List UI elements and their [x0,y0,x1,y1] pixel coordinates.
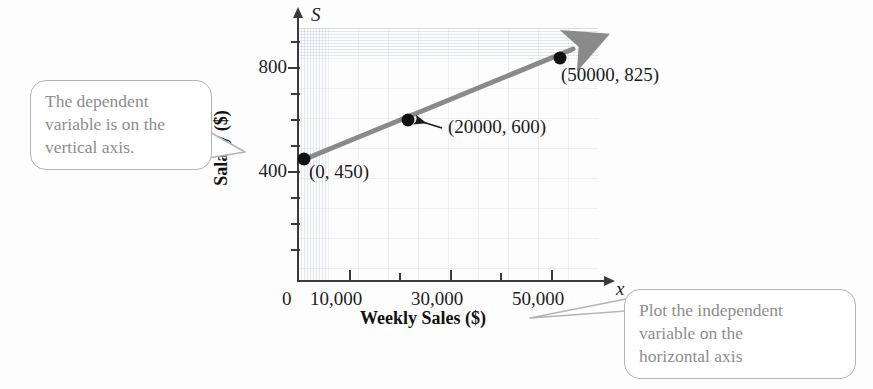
x-tick-10000 [349,270,351,282]
y-axis-line [297,16,299,282]
x-tick-label-50000: 50,000 [512,288,564,310]
x-tick-50000 [551,270,553,282]
y-tick-300 [291,197,300,199]
callout-right-line-2: variable on the [639,322,841,345]
callout-left-line-1: The dependent [45,90,197,113]
y-tick-900 [291,41,300,43]
callout-dependent-variable: The dependent variable is on the vertica… [30,80,212,170]
y-axis-arrow-icon [293,7,303,18]
callout-right-line-3: horizontal axis [639,345,841,368]
data-point-20000-600[interactable] [402,114,415,127]
x-tick-label-10000: 10,000 [310,288,362,310]
data-point-50000-825[interactable] [554,52,567,65]
x-tick-40000 [500,273,502,282]
y-tick-200 [291,223,300,225]
data-point-label-20000-600: (20000, 600) [448,116,546,138]
y-tick-700 [291,93,300,95]
figure-canvas: S x 800 400 0 10,000 30,000 50,000 Salar… [0,0,873,389]
y-axis-title: Salary ($) [211,110,232,186]
y-tick-400 [288,171,300,173]
data-point-label-50000-825: (50000, 825) [561,64,659,86]
y-axis-variable-label: S [311,4,321,26]
x-tick-20000 [399,273,401,282]
callout-left-line-3: vertical axis. [45,136,197,159]
callout-right-line-1: Plot the independent [639,299,841,322]
y-tick-600 [291,119,300,121]
x-axis-variable-label: x [616,278,624,300]
plot-grid-lines [298,28,598,281]
y-tick-500 [291,145,300,147]
y-tick-label-800: 800 [239,56,287,78]
callout-independent-variable: Plot the independent variable on the hor… [624,289,856,379]
y-tick-100 [291,249,300,251]
callout-left-line-2: variable is on the [45,113,197,136]
data-point-label-0-450: (0, 450) [309,161,369,183]
x-tick-label-30000: 30,000 [411,288,463,310]
y-tick-label-400: 400 [239,160,287,182]
x-tick-label-0: 0 [282,288,292,310]
y-tick-800 [288,67,300,69]
x-axis-line [297,280,607,282]
x-axis-arrow-icon [604,276,615,286]
x-tick-30000 [450,270,452,282]
x-axis-title: Weekly Sales ($) [360,308,486,329]
